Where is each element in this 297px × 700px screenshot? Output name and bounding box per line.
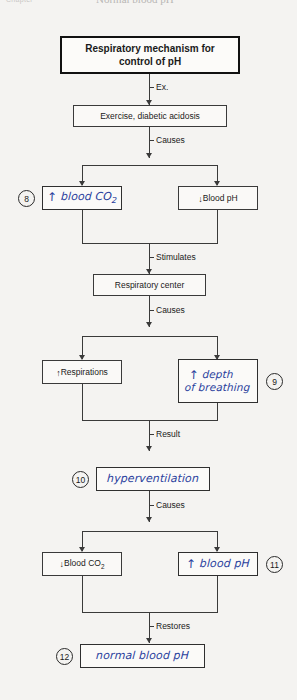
node-co2-up: ↑ blood CO2 (42, 186, 122, 210)
connector-tick (150, 257, 154, 258)
split-bar (82, 165, 218, 166)
merge-branch-right (217, 403, 218, 420)
page-header-center: Normal blood pH (96, 0, 174, 5)
connector-label-ex: Ex. (156, 82, 168, 92)
node-hyperventilation: hyperventilation (96, 467, 210, 491)
merge-branch-left (82, 384, 83, 420)
merge-bar (82, 612, 218, 613)
page-header: Chapter Normal blood pH (0, 0, 297, 8)
connector-tick (150, 505, 154, 506)
circled-number-11: 11 (266, 556, 283, 573)
split-bar (82, 531, 218, 532)
node-ph-up: ↑ blood pH (178, 552, 258, 576)
connector-tick (150, 87, 154, 88)
connector-tick (150, 434, 154, 435)
node-co2-up-label: ↑ blood CO2 (46, 191, 117, 206)
connector-label-causes-1: Causes (156, 135, 185, 145)
merge-branch-left (82, 210, 83, 243)
flowchart-diagram: Chapter Normal blood pH Respiratory mech… (0, 0, 297, 700)
circled-number-12: 12 (56, 648, 73, 665)
arrowhead (146, 153, 152, 158)
connector-label-result: Result (156, 429, 180, 439)
connector-label-causes-2: Causes (156, 305, 185, 315)
node-title-label: Respiratory mechanism forcontrol of pH (85, 42, 215, 68)
connector-tick (150, 140, 154, 141)
node-respirations-up-label: ↑Respirations (56, 367, 108, 378)
node-respiratory-center: Respiratory center (93, 274, 206, 296)
node-hyperventilation-label: hyperventilation (107, 473, 200, 486)
split-bar (82, 336, 218, 337)
arrowhead (146, 322, 152, 327)
node-depth-of-breathing: ↑ depth of breathing (178, 359, 258, 403)
node-depth-of-breathing-label: ↑ depth of breathing (185, 368, 252, 393)
node-co2-down: ↓Blood CO2 (42, 552, 122, 576)
merge-bar (82, 420, 218, 421)
node-normal-blood-ph: normal blood pH (80, 644, 205, 668)
circled-number-10: 10 (72, 471, 89, 488)
circled-number-9: 9 (266, 373, 283, 390)
node-ph-up-label: ↑ blood pH (186, 558, 250, 571)
connector-label-stimulates: Stimulates (156, 252, 196, 262)
node-trigger: Exercise, diabetic acidosis (73, 105, 227, 127)
node-trigger-label: Exercise, diabetic acidosis (100, 111, 200, 122)
node-ph-down: ↓Blood pH (178, 186, 258, 210)
merge-bar (82, 243, 218, 244)
node-respirations-up: ↑Respirations (42, 360, 122, 384)
merge-branch-right (217, 210, 218, 243)
connector-label-restores: Restores (156, 621, 190, 631)
connector-label-causes-3: Causes (156, 500, 185, 510)
arrowhead (146, 446, 152, 451)
merge-branch-left (82, 576, 83, 612)
merge-branch-right (217, 576, 218, 612)
node-normal-blood-ph-label: normal blood pH (96, 650, 190, 663)
node-co2-down-label: ↓Blood CO2 (60, 558, 105, 571)
page-header-left: Chapter (6, 0, 33, 3)
node-ph-down-label: ↓Blood pH (198, 193, 237, 204)
arrowhead (146, 517, 152, 522)
connector-tick (150, 310, 154, 311)
node-respiratory-center-label: Respiratory center (115, 280, 184, 291)
connector-tick (150, 626, 154, 627)
node-title: Respiratory mechanism forcontrol of pH (60, 36, 240, 74)
circled-number-8: 8 (18, 190, 35, 207)
arrowhead (146, 638, 152, 643)
